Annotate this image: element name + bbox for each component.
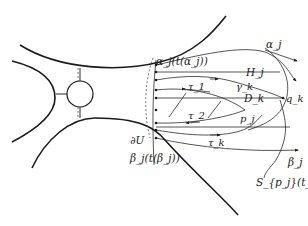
cross-line-1 (169, 93, 186, 117)
transversal-segment (153, 60, 156, 165)
left-upper-boundary-curve (12, 61, 55, 142)
gamma-k-curve (156, 76, 285, 99)
label-beta-j-t: β_j(t(β_j)) (129, 152, 180, 165)
transversal-dots (155, 64, 285, 140)
label-q-k: q_k (286, 93, 303, 105)
label-tau-k: τ_k (208, 137, 225, 149)
lower-boundary-curve (32, 118, 238, 215)
beta-j-curve (156, 138, 298, 151)
label-alpha-j-t: α_j(t(α_j)) (156, 55, 208, 68)
cross-line-2 (208, 101, 221, 118)
label-tau-2: τ_2 (188, 110, 205, 122)
S-pj-tk-curve (264, 100, 286, 178)
label-D-k: D_k (243, 92, 264, 105)
label-p-j: p_j (240, 113, 255, 125)
label-tau-1: τ_1 (188, 81, 205, 93)
tau-1-lens-top (156, 89, 245, 110)
label-alpha-j: α_j (266, 38, 282, 51)
label-dU: ∂U (130, 134, 145, 146)
label-H-j: H_j (245, 66, 264, 79)
diagram-canvas: α_j(t(α_j)) H_j γ_k τ_1 D_k q_k τ_2 p_j … (0, 0, 308, 226)
handle-circle (67, 81, 93, 107)
label-beta-j: β_j (287, 156, 303, 169)
label-S-pj-tk: S_{p_j}(t_k) (256, 176, 308, 189)
